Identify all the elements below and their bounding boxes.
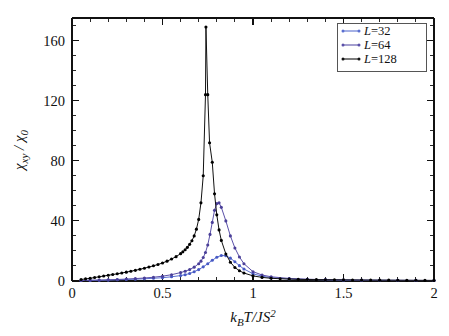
svg-text:χxy / χ0: χxy / χ0 xyxy=(11,129,30,172)
data-point xyxy=(224,219,227,222)
data-point xyxy=(102,274,105,277)
data-point xyxy=(147,265,150,268)
data-point xyxy=(129,270,132,273)
y-title-slash: / xyxy=(11,142,27,154)
data-point xyxy=(116,272,119,275)
data-point xyxy=(405,279,408,282)
data-point xyxy=(179,274,182,277)
data-point xyxy=(161,261,164,264)
data-point xyxy=(107,278,110,281)
chart-plot-svg: 00.511.52 04080120160 kBT/JS2 χxy / χ0 L… xyxy=(0,0,449,336)
data-point xyxy=(251,274,254,277)
data-point xyxy=(324,278,327,281)
data-point xyxy=(387,279,390,282)
data-point xyxy=(233,246,236,249)
data-point xyxy=(111,273,114,276)
data-point xyxy=(193,234,196,237)
data-point xyxy=(138,268,141,271)
data-point xyxy=(197,262,200,265)
data-point xyxy=(152,276,155,279)
data-point xyxy=(165,260,168,263)
legend-label: L=32 xyxy=(363,24,391,38)
y-tick-label: 80 xyxy=(51,153,66,169)
legend-swatch-marker xyxy=(358,58,361,61)
chart-figure: 00.511.52 04080120160 kBT/JS2 χxy / χ0 L… xyxy=(0,0,449,336)
data-point xyxy=(190,239,193,242)
x-tick-label: 1 xyxy=(249,285,256,301)
y-axis-tick-labels: 04080120160 xyxy=(43,33,65,289)
data-point xyxy=(432,279,435,282)
data-point xyxy=(233,260,236,263)
data-point xyxy=(204,251,207,254)
data-point xyxy=(224,252,227,255)
x-tick-label: 0 xyxy=(68,285,75,301)
data-point xyxy=(184,248,187,251)
data-point xyxy=(143,276,146,279)
data-point xyxy=(211,221,214,224)
chart-legend[interactable]: L=32L=64L=128 xyxy=(337,23,426,71)
data-point xyxy=(218,201,221,204)
data-point xyxy=(170,258,173,261)
series-l-32 xyxy=(80,254,436,282)
data-point xyxy=(125,271,128,274)
data-point xyxy=(351,278,354,281)
data-point xyxy=(161,275,164,278)
data-point xyxy=(84,277,87,280)
data-point xyxy=(116,278,119,281)
data-point xyxy=(98,279,101,282)
data-point xyxy=(229,261,232,264)
data-point xyxy=(360,278,363,281)
data-point xyxy=(179,271,182,274)
legend-swatch-marker xyxy=(342,44,345,47)
data-point xyxy=(197,268,200,271)
data-point xyxy=(213,209,216,212)
x-tick-label: 0.5 xyxy=(153,285,171,301)
data-point xyxy=(279,277,282,280)
data-point xyxy=(80,278,83,281)
x-tick-label: 1.5 xyxy=(334,285,352,301)
series-line-1 xyxy=(81,203,434,281)
data-point xyxy=(89,277,92,280)
series-l-64 xyxy=(80,201,436,282)
data-point xyxy=(195,228,198,231)
legend-label-value: =32 xyxy=(371,24,391,38)
data-point xyxy=(125,278,128,281)
data-point xyxy=(184,270,187,273)
legend-label-value: =64 xyxy=(371,38,391,52)
data-point xyxy=(242,267,245,270)
data-point xyxy=(152,264,155,267)
y-tick-label: 160 xyxy=(43,33,65,49)
data-point xyxy=(333,278,336,281)
data-point xyxy=(306,278,309,281)
data-point xyxy=(208,141,211,144)
data-point xyxy=(208,233,211,236)
data-point xyxy=(93,276,96,279)
data-point xyxy=(206,262,209,265)
data-point xyxy=(181,250,184,253)
legend-label-symbol: L xyxy=(363,38,371,52)
legend-label: L=128 xyxy=(363,52,397,66)
data-point xyxy=(220,254,223,257)
data-point xyxy=(193,270,196,273)
data-point xyxy=(193,266,196,269)
data-point xyxy=(202,265,205,268)
data-point xyxy=(242,262,245,265)
data-point xyxy=(238,269,241,272)
y-title-sub-0: 0 xyxy=(18,129,30,135)
data-point xyxy=(242,271,245,274)
data-point xyxy=(378,279,381,282)
data-point xyxy=(218,228,221,231)
data-point xyxy=(220,206,223,209)
data-point xyxy=(206,93,209,96)
data-point xyxy=(107,274,110,277)
data-point xyxy=(98,275,101,278)
data-point xyxy=(188,272,191,275)
data-point xyxy=(233,266,236,269)
y-axis-title: χxy / χ0 xyxy=(11,129,30,172)
data-point xyxy=(238,264,241,267)
data-point xyxy=(220,239,223,242)
data-point xyxy=(215,256,218,259)
x-axis-tick-labels: 00.511.52 xyxy=(68,285,437,301)
data-point xyxy=(156,263,159,266)
y-tick-label: 0 xyxy=(58,273,65,289)
